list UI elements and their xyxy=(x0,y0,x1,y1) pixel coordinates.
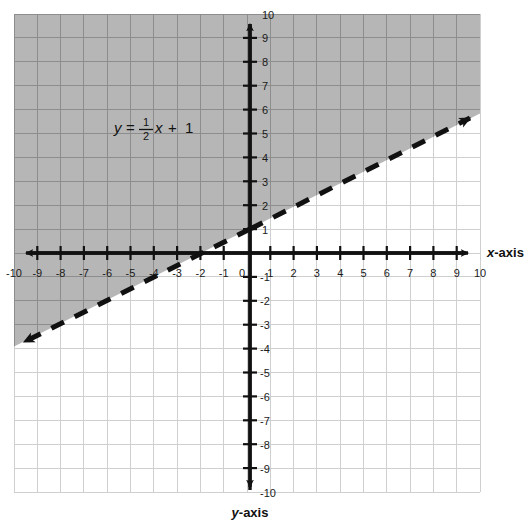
y-tick-label: 9 xyxy=(262,32,268,44)
x-tick-label: -1 xyxy=(219,267,229,279)
equation-fraction-numerator: 1 xyxy=(143,116,149,128)
x-tick-label: 3 xyxy=(314,267,320,279)
x-axis-title-rest: -axis xyxy=(494,245,524,260)
y-tick-label: 1 xyxy=(262,224,268,236)
x-tick-label: 2 xyxy=(291,267,297,279)
x-tick-label: -10 xyxy=(6,267,22,279)
x-tick-label: 6 xyxy=(384,267,390,279)
x-tick-label: -4 xyxy=(149,267,159,279)
y-tick-label: 5 xyxy=(262,128,268,140)
y-tick-label: 8 xyxy=(262,56,268,68)
y-tick-label: -1 xyxy=(260,271,270,283)
x-tick-label: -7 xyxy=(79,267,89,279)
y-tick-label: 6 xyxy=(262,104,268,116)
x-tick-label: 8 xyxy=(430,267,436,279)
x-tick-label: -5 xyxy=(126,267,136,279)
origin-label: 0 xyxy=(239,267,245,279)
y-axis-title: y-axis xyxy=(231,505,269,520)
equation-equals: = xyxy=(126,119,135,136)
y-tick-label: -4 xyxy=(260,343,270,355)
equation-plus: + xyxy=(168,119,177,136)
y-tick-label: -6 xyxy=(260,391,270,403)
plot-svg: -10 -9 -8 -7 -6 -5 -4 -3 -2 -1 0 1 2 3 4… xyxy=(0,0,530,526)
y-tick-label: 10 xyxy=(262,9,274,21)
x-tick-label: 10 xyxy=(474,267,486,279)
y-tick-label: -5 xyxy=(260,367,270,379)
y-tick-label: -2 xyxy=(260,295,270,307)
y-tick-label: 2 xyxy=(262,200,268,212)
y-tick-label: -8 xyxy=(260,439,270,451)
equation-variable: x xyxy=(154,119,163,136)
x-tick-label: 9 xyxy=(454,267,460,279)
x-tick-label: 4 xyxy=(337,267,343,279)
equation-fraction-denominator: 2 xyxy=(143,130,149,142)
x-tick-label: 5 xyxy=(360,267,366,279)
coordinate-graph-figure: -10 -9 -8 -7 -6 -5 -4 -3 -2 -1 0 1 2 3 4… xyxy=(0,0,530,526)
x-tick-label: -8 xyxy=(56,267,66,279)
x-tick-label: 7 xyxy=(407,267,413,279)
x-tick-label: -3 xyxy=(172,267,182,279)
x-axis-title: x-axis xyxy=(486,245,524,260)
y-tick-label: 7 xyxy=(262,80,268,92)
y-tick-label: -7 xyxy=(260,415,270,427)
y-tick-label: -3 xyxy=(260,319,270,331)
y-tick-label: -9 xyxy=(260,463,270,475)
x-tick-label: -9 xyxy=(32,267,42,279)
x-tick-label: -2 xyxy=(196,267,206,279)
equation-constant: 1 xyxy=(185,119,193,136)
y-tick-label: -10 xyxy=(260,487,276,499)
x-tick-label: -6 xyxy=(102,267,112,279)
y-axis-title-rest: -axis xyxy=(239,505,269,520)
y-tick-label: 4 xyxy=(262,152,268,164)
y-tick-label: 3 xyxy=(262,176,268,188)
